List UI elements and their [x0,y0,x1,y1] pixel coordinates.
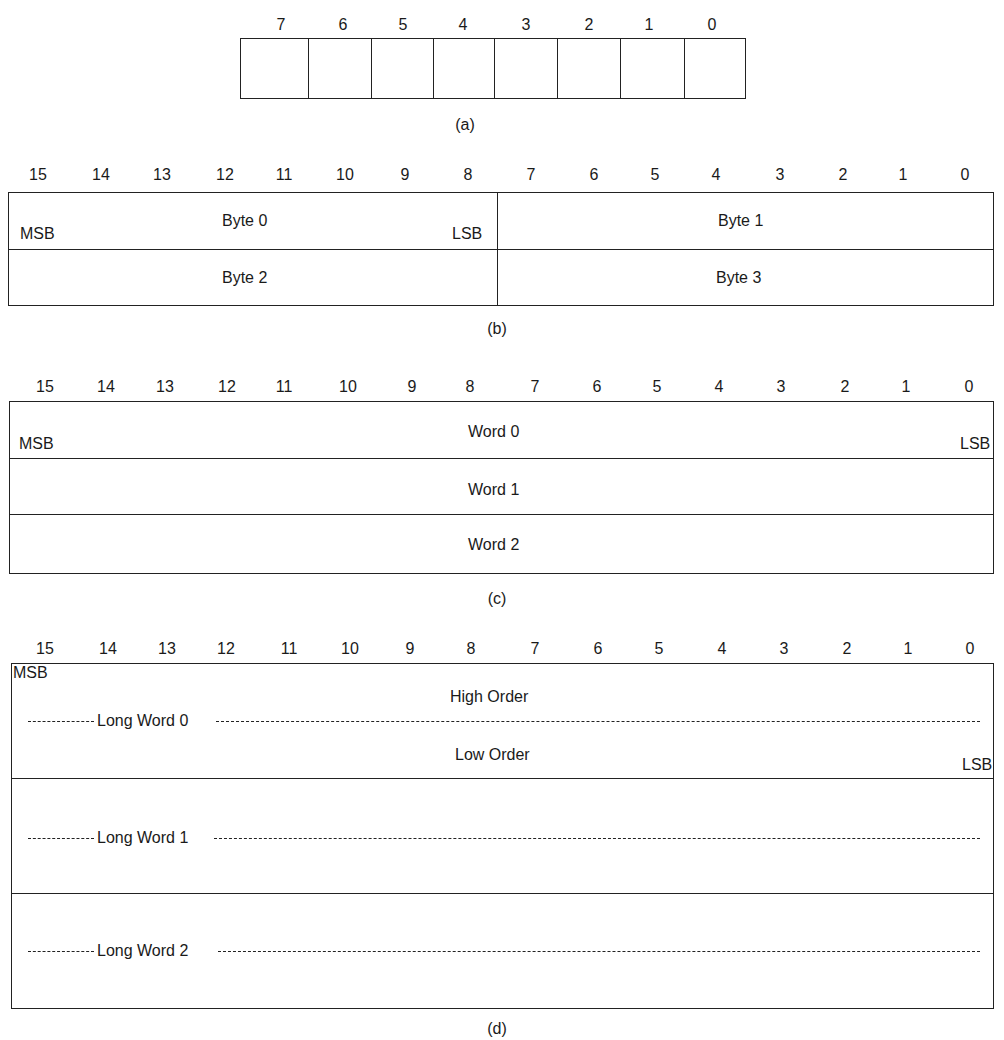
lsb-label: LSB [452,225,482,243]
bit-label: 11 [264,378,304,396]
bit-label: 7 [261,16,301,34]
bit-label: 4 [699,378,739,396]
caption-d: (d) [487,1020,507,1038]
bit-label: 6 [323,16,363,34]
bit-label: 4 [696,166,736,184]
cell-divider [684,38,685,99]
bit-label: 14 [81,166,121,184]
long-word-2-label: Long Word 2 [97,942,188,960]
row-divider [11,778,994,779]
bit-label: 5 [637,378,677,396]
bit-label: 15 [18,166,58,184]
byte-register-box [240,38,746,99]
bit-label: 7 [511,166,551,184]
bit-label: 11 [269,640,309,658]
bit-label: 14 [88,640,128,658]
bit-label: 12 [207,378,247,396]
bit-label: 3 [764,640,804,658]
word-0-label: Word 0 [468,423,519,441]
bit-label: 10 [325,166,365,184]
bit-label: 5 [639,640,679,658]
bit-label: 2 [569,16,609,34]
bit-label: 8 [448,166,488,184]
cell-divider [308,38,309,99]
dashed-separator [28,721,94,722]
bit-label: 15 [25,640,65,658]
msb-label: MSB [19,435,54,453]
bit-label: 11 [264,166,304,184]
bit-label: 13 [147,640,187,658]
dashed-separator [216,721,980,722]
bit-label: 3 [760,166,800,184]
bit-label: 2 [825,378,865,396]
msb-label: MSB [13,664,48,682]
dashed-separator [214,838,980,839]
byte-1-label: Byte 1 [718,212,763,230]
long-word-1-label: Long Word 1 [97,829,188,847]
byte-divider [497,192,498,306]
bit-label: 15 [25,378,65,396]
bit-label: 7 [515,378,555,396]
cell-divider [494,38,495,99]
bit-label: 0 [692,16,732,34]
bit-label: 5 [383,16,423,34]
bit-label: 2 [823,166,863,184]
bit-label: 13 [145,378,185,396]
bit-label: 12 [206,640,246,658]
byte-0-label: Byte 0 [222,212,267,230]
caption-a: (a) [455,116,475,134]
caption-c: (c) [488,590,507,608]
cell-divider [371,38,372,99]
bit-label: 14 [86,378,126,396]
cell-divider [557,38,558,99]
cell-divider [433,38,434,99]
bit-label: 10 [328,378,368,396]
bit-label: 0 [945,166,985,184]
bit-label: 9 [385,166,425,184]
bit-label: 12 [205,166,245,184]
row-divider [8,249,994,250]
bit-label: 3 [506,16,546,34]
bit-label: 7 [515,640,555,658]
bit-label: 0 [950,640,990,658]
bit-label: 10 [330,640,370,658]
row-divider [11,893,994,894]
word-2-label: Word 2 [468,536,519,554]
lsb-label: LSB [960,435,990,453]
high-order-label: High Order [450,688,528,706]
caption-b: (b) [487,320,507,338]
bit-label: 8 [450,378,490,396]
bit-label: 0 [949,378,989,396]
byte-2-label: Byte 2 [222,269,267,287]
bit-label: 13 [142,166,182,184]
cell-divider [620,38,621,99]
bit-label: 4 [443,16,483,34]
byte-3-label: Byte 3 [716,269,761,287]
lsb-label: LSB [962,756,992,774]
dashed-separator [28,838,94,839]
row-divider [9,458,994,459]
bit-label: 5 [635,166,675,184]
bit-label: 9 [392,378,432,396]
bit-label: 6 [577,378,617,396]
bit-label: 3 [761,378,801,396]
bit-label: 1 [886,378,926,396]
bit-label: 1 [883,166,923,184]
bit-label: 1 [888,640,928,658]
bit-label: 1 [629,16,669,34]
dashed-separator [28,951,94,952]
msb-label: MSB [20,225,55,243]
dashed-separator [218,951,980,952]
long-word-0-label: Long Word 0 [97,712,188,730]
low-order-label: Low Order [455,746,530,764]
bit-label: 8 [451,640,491,658]
bit-label: 6 [578,640,618,658]
row-divider [9,514,994,515]
bit-label: 2 [827,640,867,658]
word-1-label: Word 1 [468,481,519,499]
bit-label: 9 [390,640,430,658]
bit-label: 4 [702,640,742,658]
bit-label: 6 [574,166,614,184]
